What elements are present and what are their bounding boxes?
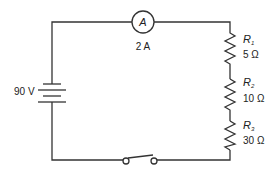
ammeter-reading: 2 A xyxy=(136,41,151,52)
battery-label: 90 V xyxy=(14,86,35,97)
resistor-r2-name: R2 xyxy=(243,76,255,89)
wire-top-right xyxy=(154,22,230,30)
switch-icon xyxy=(123,155,157,164)
resistor-r1-name: R1 xyxy=(243,33,254,46)
resistor-r2-value: 10 Ω xyxy=(243,93,265,104)
ammeter-symbol: A xyxy=(138,16,146,28)
wire-left-top xyxy=(52,22,132,84)
resistor-r3-name: R3 xyxy=(243,119,255,132)
circuit-diagram: A 2 A 90 V R1 5 Ω R2 10 Ω R3 30 Ω xyxy=(0,0,277,176)
battery-icon xyxy=(38,84,66,102)
resistor-r1-icon xyxy=(225,30,235,79)
wire-bottom-right xyxy=(157,150,230,160)
resistor-r2-icon xyxy=(225,79,235,121)
resistor-r3-value: 30 Ω xyxy=(243,135,265,146)
resistor-r3-icon xyxy=(225,121,235,150)
resistor-r1-value: 5 Ω xyxy=(243,49,259,60)
wire-left-bottom xyxy=(52,102,123,160)
